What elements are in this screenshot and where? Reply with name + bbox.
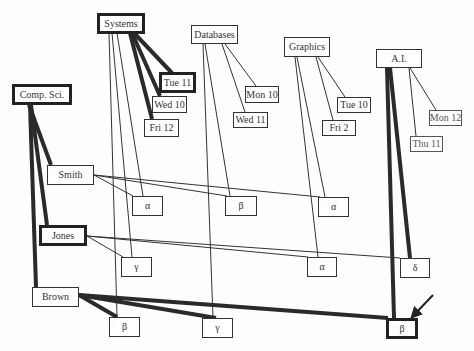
- node-gamma1: γ: [121, 257, 152, 277]
- node-alpha3: α: [307, 257, 337, 277]
- pointer-arrow-icon: [413, 295, 433, 316]
- node-mon10: Mon 10: [245, 86, 279, 103]
- edge: [409, 68, 416, 136]
- edge: [295, 57, 318, 257]
- node-wed11: Wed 11: [233, 112, 268, 128]
- node-alpha2: α: [318, 197, 349, 217]
- edge: [318, 57, 345, 97]
- node-beta3: β: [386, 318, 418, 339]
- node-graphics: Graphics: [284, 37, 330, 57]
- thick-edge: [79, 295, 388, 318]
- edge: [222, 44, 245, 112]
- edge: [87, 236, 308, 257]
- node-tue11: Tue 11: [159, 72, 196, 93]
- node-fri2: Fri 2: [322, 120, 356, 136]
- edge: [87, 236, 400, 258]
- node-beta2: β: [109, 317, 140, 337]
- edge: [205, 44, 230, 196]
- node-fri12: Fri 12: [144, 119, 179, 137]
- node-gamma2: γ: [202, 318, 233, 338]
- node-wed10: Wed 10: [152, 96, 187, 113]
- node-databases: Databases: [191, 25, 238, 44]
- node-alpha1: α: [132, 196, 163, 216]
- schedule-constraint-diagram: SystemsDatabasesGraphicsA.I.Tue 11Wed 10…: [0, 0, 474, 351]
- node-delta: δ: [400, 258, 430, 278]
- node-tue10: Tue 10: [337, 97, 371, 113]
- node-brown: Brown: [32, 287, 79, 307]
- node-thu11: Thu 11: [410, 136, 443, 152]
- node-ai: A.I.: [376, 49, 422, 68]
- node-compsci: Comp. Sci.: [12, 84, 72, 105]
- edge: [297, 57, 325, 197]
- node-beta1: β: [225, 196, 257, 216]
- node-smith: Smith: [47, 165, 94, 185]
- edge: [117, 33, 143, 196]
- edge: [225, 44, 256, 86]
- node-jones: Jones: [39, 225, 87, 246]
- node-systems: Systems: [97, 13, 145, 34]
- node-mon12: Mon 12: [429, 110, 462, 126]
- edge: [410, 68, 436, 110]
